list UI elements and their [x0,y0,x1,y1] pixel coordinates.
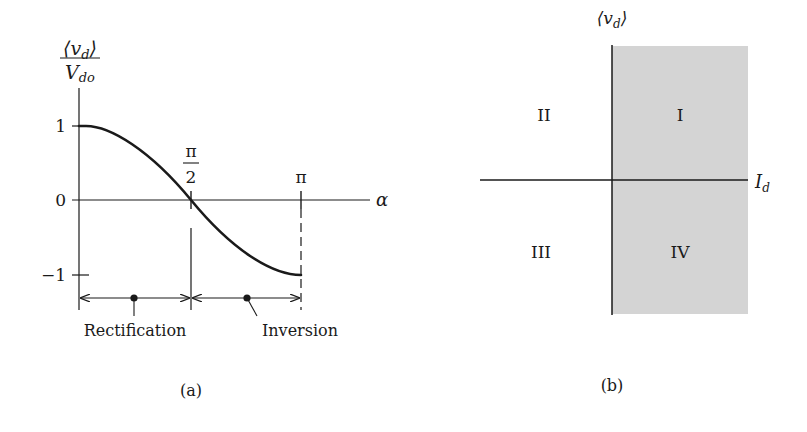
x-axis-label: α [376,189,388,210]
y-tick-label-neg1: −1 [41,265,66,285]
quadrant-II-label: II [537,105,550,125]
svg-text:2: 2 [186,167,197,187]
id-axis-label: Id [754,171,770,195]
inversion-label: Inversion [262,321,338,340]
caption-b: (b) [601,376,624,395]
inversion-leader [247,298,257,316]
x-tick-label-pi-half: π 2 [183,141,199,187]
quadrant-III-label: III [531,242,551,262]
x-tick-label-pi: π [295,167,306,187]
panel-b: ⟨vd⟩ Id II I III IV (b) [480,8,770,395]
quadrant-I-label: I [677,105,684,125]
y-axis-label: ⟨vd⟩ Vdo [60,37,100,85]
y-tick-label-0: 0 [55,190,66,210]
rectification-label: Rectification [84,321,187,340]
caption-a: (a) [180,381,202,400]
panel-a: ⟨vd⟩ Vdo α 1 0 −1 π 2 π [41,37,388,400]
vd-axis-label: ⟨vd⟩ [597,8,628,31]
figure: ⟨vd⟩ Vdo α 1 0 −1 π 2 π [0,0,807,432]
quadrant-IV-label: IV [671,242,691,262]
y-tick-label-1: 1 [55,116,66,136]
svg-text:Vdo: Vdo [65,61,95,85]
svg-text:π: π [185,141,196,161]
